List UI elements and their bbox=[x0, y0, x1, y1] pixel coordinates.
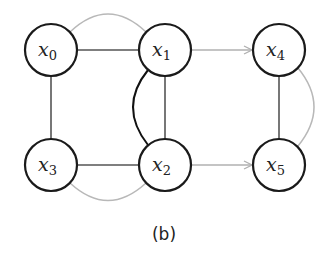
graph-diagram: x0 x1 x4 x3 x2 x5 bbox=[0, 0, 328, 261]
node-x0: x0 bbox=[25, 24, 77, 76]
node-x3: x3 bbox=[25, 139, 77, 191]
edge-x0-x1-arc bbox=[70, 14, 146, 32]
edge-x3-x2-arc bbox=[70, 183, 146, 201]
edge-x4-x5-arc bbox=[298, 68, 314, 146]
node-x1: x1 bbox=[139, 24, 191, 76]
edge-x1-x2-curve bbox=[133, 70, 148, 145]
node-x2: x2 bbox=[139, 139, 191, 191]
node-x5: x5 bbox=[253, 139, 305, 191]
figure-caption: (b) bbox=[0, 224, 328, 244]
node-x4: x4 bbox=[253, 24, 305, 76]
